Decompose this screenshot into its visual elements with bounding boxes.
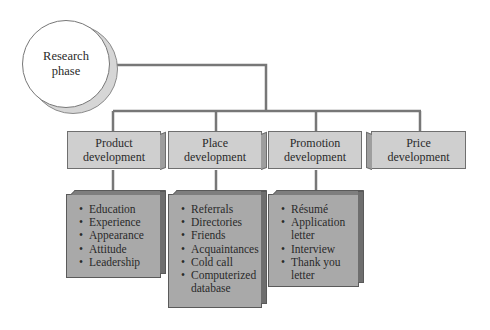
list-item: Education	[79, 203, 156, 216]
list-item: Cold call	[181, 256, 257, 269]
research-phase-circle: Research phase	[22, 20, 110, 108]
list-item: Application letter	[281, 216, 351, 242]
promotion-items-list: Résumé Application letter Interview Than…	[281, 203, 354, 282]
research-phase-node: Research phase	[22, 20, 114, 112]
list-item: Résumé	[281, 203, 354, 216]
box-side-face	[358, 191, 364, 283]
product-items-list: Education Experience Appearance Attitude…	[79, 203, 156, 269]
research-phase-diagram: Research phase Product development Place…	[0, 0, 490, 330]
box-top-face	[272, 190, 364, 195]
box-top-face	[172, 190, 267, 195]
product-development-box: Product development	[67, 131, 161, 169]
list-item: Acquaintances	[181, 243, 257, 256]
product-items-box: Education Experience Appearance Attitude…	[66, 194, 161, 278]
place-development-box: Place development	[168, 131, 262, 169]
list-item: Interview	[281, 243, 354, 256]
box-side-face	[160, 132, 166, 170]
price-title-line2: development	[388, 150, 450, 164]
product-title-line2: development	[83, 150, 145, 164]
list-item: Experience	[79, 216, 156, 229]
list-item: Leadership	[79, 256, 156, 269]
price-title-line1: Price	[388, 136, 450, 150]
promotion-items-box: Résumé Application letter Interview Than…	[268, 194, 359, 287]
place-items-box: Referrals Directories Friends Acquaintan…	[168, 194, 262, 308]
promotion-title-line2: development	[284, 150, 346, 164]
box-side-face	[261, 132, 267, 170]
box-top-face	[70, 190, 166, 195]
promotion-title-line1: Promotion	[284, 136, 346, 150]
list-item: Referrals	[181, 203, 257, 216]
list-item: Thank you letter	[281, 256, 351, 282]
research-phase-label-line1: Research	[43, 49, 89, 64]
place-items-list: Referrals Directories Friends Acquaintan…	[181, 203, 257, 295]
research-phase-label-line2: phase	[43, 64, 89, 79]
box-side-face	[261, 191, 267, 304]
list-item: Directories	[181, 216, 257, 229]
price-development-box: Price development	[371, 131, 466, 169]
list-item: Appearance	[79, 229, 156, 242]
list-item: Attitude	[79, 243, 156, 256]
list-item: Friends	[181, 229, 257, 242]
box-side-face	[160, 191, 166, 274]
promotion-development-box: Promotion development	[268, 131, 362, 169]
product-title-line1: Product	[83, 136, 145, 150]
box-side-face	[366, 132, 372, 170]
place-title-line1: Place	[184, 136, 246, 150]
list-item: Computerized database	[181, 269, 261, 295]
place-title-line2: development	[184, 150, 246, 164]
